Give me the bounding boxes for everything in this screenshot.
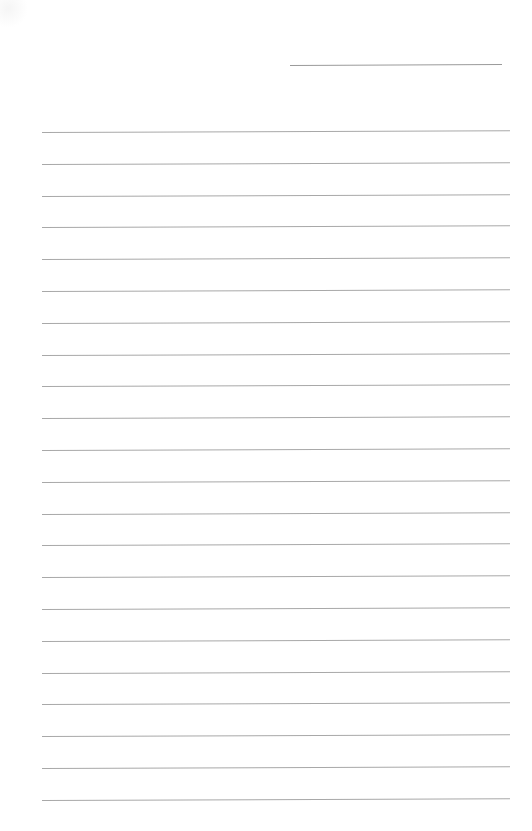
ruled-line xyxy=(42,702,510,705)
ruled-line xyxy=(42,162,510,165)
ruled-line xyxy=(42,543,510,546)
ruled-line xyxy=(42,671,510,674)
ruled-line xyxy=(42,225,510,228)
ruled-line xyxy=(42,512,510,515)
ruled-line xyxy=(42,766,510,769)
ruled-line xyxy=(42,798,510,801)
ruled-line xyxy=(42,353,510,356)
ruled-line xyxy=(42,289,510,292)
ruled-line xyxy=(42,384,510,387)
ruled-line xyxy=(42,480,510,483)
ruled-lines-container xyxy=(0,0,532,831)
ruled-line xyxy=(42,607,510,610)
ruled-line xyxy=(42,448,510,451)
ruled-line xyxy=(42,321,510,324)
ruled-line xyxy=(42,639,510,642)
ruled-line xyxy=(42,194,510,197)
ruled-line xyxy=(42,575,510,578)
ruled-line xyxy=(42,257,510,260)
ruled-line xyxy=(42,734,510,737)
ruled-line xyxy=(42,416,510,419)
lined-paper-page xyxy=(0,0,532,831)
ruled-line xyxy=(42,130,510,133)
